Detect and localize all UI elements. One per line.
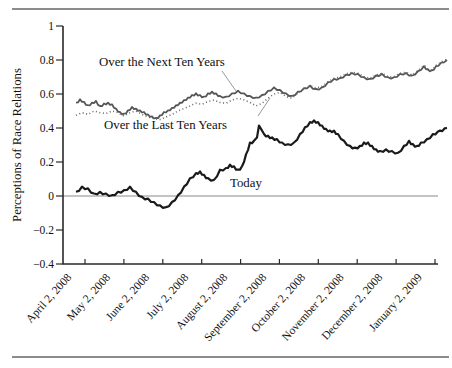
- annotation-leader-line: [222, 71, 236, 91]
- annotation-next-ten-years: Over the Next Ten Years: [99, 55, 225, 69]
- y-tick-label-0-2: 0.2: [14, 155, 54, 169]
- series-line-today: [76, 120, 447, 207]
- y-tick-label-0-4: 0.4: [14, 121, 54, 135]
- y-tick-label-neg-0-4: −0.4: [14, 257, 54, 271]
- y-tick-label-0-8: 0.8: [14, 53, 54, 67]
- annotation-today: Today: [230, 176, 262, 190]
- annotation-leader-line: [258, 98, 270, 116]
- y-tick-label-neg-0-2: −0.2: [14, 223, 54, 237]
- y-tick-label-0-6: 0.6: [14, 87, 54, 101]
- race-relations-chart: Perceptions of Race Relations 1 0.8 0.6 …: [0, 0, 452, 368]
- y-tick-label-0: 0: [14, 189, 54, 203]
- annotation-last-ten-years: Over the Last Ten Years: [104, 118, 227, 132]
- y-tick-label-1: 1: [14, 19, 54, 33]
